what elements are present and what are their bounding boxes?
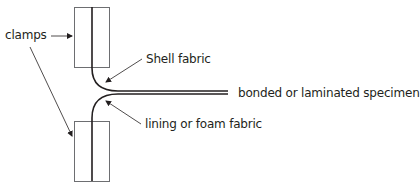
- shell-arrow: [106, 59, 142, 82]
- lining-arrow: [106, 101, 141, 124]
- shell-fabric-label: Shell fabric: [146, 53, 211, 65]
- clamps-arrow-bottom: [30, 47, 72, 136]
- shell-fabric-line: [92, 7, 228, 91]
- lining-fabric-label: lining or foam fabric: [145, 118, 262, 130]
- clamps-label: clamps: [5, 29, 47, 41]
- lining-fabric-line: [92, 94, 228, 181]
- specimen-label: bonded or laminated specimen: [238, 87, 420, 99]
